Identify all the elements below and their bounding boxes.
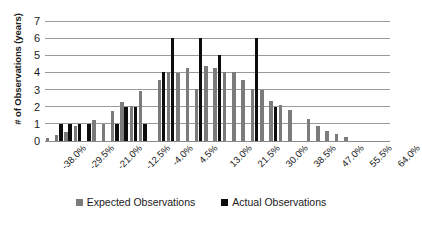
bar-expected bbox=[307, 119, 311, 141]
bar-actual bbox=[218, 55, 222, 141]
y-tick-label-6: 6 bbox=[26, 33, 40, 44]
bar-group bbox=[45, 21, 54, 141]
bar-group bbox=[204, 21, 213, 141]
bar-expected bbox=[335, 134, 339, 141]
bar-group bbox=[306, 21, 315, 141]
bar-expected bbox=[186, 68, 190, 141]
bar-expected bbox=[120, 102, 124, 141]
bar-group bbox=[185, 21, 194, 141]
y-tick-label-3: 3 bbox=[26, 84, 40, 95]
bar-group bbox=[129, 21, 138, 141]
bar-group bbox=[166, 21, 175, 141]
bar-group bbox=[278, 21, 287, 141]
legend-entry[interactable]: Actual Observations bbox=[221, 196, 326, 208]
bar-group bbox=[381, 21, 390, 141]
bar-expected bbox=[92, 120, 96, 141]
bar-group bbox=[334, 21, 343, 141]
bar-actual bbox=[199, 38, 203, 141]
bar-group bbox=[92, 21, 101, 141]
bar-group bbox=[222, 21, 231, 141]
bar-expected bbox=[102, 124, 106, 141]
bar-expected bbox=[46, 138, 50, 141]
y-tick-label-7: 7 bbox=[26, 16, 40, 27]
bar-group bbox=[297, 21, 306, 141]
x-tick-label: 13.0% bbox=[227, 143, 253, 169]
bar-expected bbox=[232, 72, 236, 141]
bar-actual bbox=[68, 124, 72, 141]
bar-expected bbox=[195, 89, 199, 141]
bar-expected bbox=[344, 137, 348, 141]
bar-expected bbox=[130, 106, 134, 141]
plot-area bbox=[45, 21, 390, 141]
bar-group bbox=[82, 21, 91, 141]
y-tick-label-2: 2 bbox=[26, 101, 40, 112]
y-axis-tick-labels: 01234567 bbox=[26, 14, 40, 142]
x-tick-label: 21.5% bbox=[255, 143, 281, 169]
bar-group bbox=[371, 21, 380, 141]
bar-actual bbox=[162, 72, 166, 141]
bar-group bbox=[269, 21, 278, 141]
bar-actual bbox=[115, 124, 119, 141]
bar-group bbox=[287, 21, 296, 141]
bar-expected bbox=[213, 68, 217, 141]
bar-group bbox=[325, 21, 334, 141]
bar-group bbox=[120, 21, 129, 141]
x-tick-label: 47.0% bbox=[340, 143, 366, 169]
y-tick-label-4: 4 bbox=[26, 67, 40, 78]
bar-expected bbox=[316, 126, 320, 141]
bar-group bbox=[362, 21, 371, 141]
bar-expected bbox=[55, 135, 59, 141]
bar-group bbox=[315, 21, 324, 141]
bar-group bbox=[194, 21, 203, 141]
bar-expected bbox=[204, 66, 208, 141]
bar-expected bbox=[251, 89, 255, 141]
bar-group bbox=[259, 21, 268, 141]
bar-group bbox=[213, 21, 222, 141]
bar-actual bbox=[171, 38, 175, 141]
y-axis-title: # of Observations (years) bbox=[12, 0, 26, 144]
x-tick-label: -38.0% bbox=[60, 143, 88, 171]
x-tick-label: -12.5% bbox=[144, 143, 172, 171]
y-tick-label-1: 1 bbox=[26, 118, 40, 129]
legend-label: Actual Observations bbox=[232, 196, 326, 208]
bar-expected bbox=[269, 101, 273, 141]
x-axis-tick-labels: -38.0%-29.5%-21.0%-12.5%-4.0%4.5%13.0%21… bbox=[45, 143, 390, 189]
bar-expected bbox=[223, 72, 227, 141]
x-tick-label: 4.5% bbox=[198, 143, 220, 165]
x-tick-label: -4.0% bbox=[171, 143, 195, 167]
bar-expected bbox=[64, 132, 68, 141]
x-tick-label: 64.0% bbox=[396, 143, 422, 169]
bar-actual bbox=[87, 124, 91, 141]
bar-expected bbox=[279, 105, 283, 141]
bar-group bbox=[343, 21, 352, 141]
bars-layer bbox=[45, 21, 390, 141]
x-tick-label: -29.5% bbox=[88, 143, 116, 171]
x-tick-label: 30.0% bbox=[284, 143, 310, 169]
bar-actual bbox=[143, 124, 147, 141]
bar-group bbox=[54, 21, 63, 141]
y-tick-label-0: 0 bbox=[26, 136, 40, 147]
bar-group bbox=[73, 21, 82, 141]
bar-group bbox=[157, 21, 166, 141]
bar-group bbox=[64, 21, 73, 141]
bar-group bbox=[353, 21, 362, 141]
bar-group bbox=[148, 21, 157, 141]
bar-expected bbox=[288, 110, 292, 141]
bar-group bbox=[138, 21, 147, 141]
x-tick-label: 38.5% bbox=[312, 143, 338, 169]
bar-actual bbox=[78, 124, 82, 141]
bar-expected bbox=[325, 131, 329, 141]
bar-expected bbox=[260, 90, 264, 141]
legend-label: Expected Observations bbox=[87, 196, 196, 208]
bar-expected bbox=[158, 80, 162, 141]
bar-actual bbox=[59, 124, 63, 141]
bar-group bbox=[101, 21, 110, 141]
bar-expected bbox=[139, 91, 143, 141]
x-tick-label: -21.0% bbox=[116, 143, 144, 171]
bar-expected bbox=[74, 126, 78, 141]
bar-actual bbox=[274, 107, 278, 141]
bar-expected bbox=[176, 73, 180, 141]
chart-legend: Expected ObservationsActual Observations bbox=[0, 196, 402, 208]
bar-group bbox=[250, 21, 259, 141]
legend-entry[interactable]: Expected Observations bbox=[76, 196, 196, 208]
